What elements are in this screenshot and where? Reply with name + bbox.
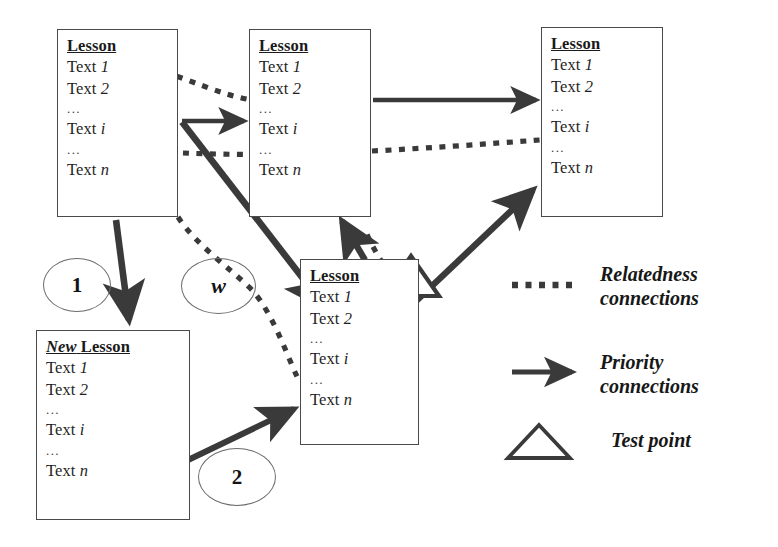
lesson-line-index: i [585, 117, 590, 136]
lesson-line-ellipsis-1: ... [259, 99, 370, 119]
lesson-line-index: 1 [101, 57, 109, 76]
lesson-line-ellipsis-1: ... [67, 99, 177, 119]
lesson-line-2: Text 2 [310, 308, 418, 329]
marker-ellipse-step-one[interactable]: 1 [43, 258, 111, 312]
lesson-line-index: n [101, 160, 109, 179]
lesson-line-n: Text n [310, 389, 418, 410]
lesson-line-index: n [344, 390, 352, 409]
legend-priority-line1: Priority [600, 350, 699, 374]
priority-edge-bm-to-tr [413, 190, 533, 304]
lesson-title-text: Lesson [259, 36, 308, 55]
legend-test-point-line1: Test point [611, 428, 691, 452]
lesson-line-1: Text 1 [551, 54, 662, 75]
legend-triangle-icon [508, 425, 570, 458]
lesson-line-index: 2 [80, 380, 88, 399]
lesson-line-index: 1 [344, 287, 352, 306]
new-lesson-title-prefix: New [46, 337, 77, 356]
diagram-canvas: Lesson Text 1 Text 2 ... Text i ... Text… [0, 0, 778, 547]
legend-test-point-label: Test point [611, 428, 691, 452]
lesson-title: Lesson [310, 265, 418, 286]
lesson-line-2: Text 2 [46, 379, 189, 400]
lesson-line-2: Text 2 [551, 76, 662, 97]
lesson-line-1: Text 1 [259, 56, 370, 77]
legend-relatedness-line1: Relatedness [600, 262, 699, 286]
legend-priority-label: Priority connections [600, 350, 699, 399]
lesson-box-bottom-middle[interactable]: Lesson Text 1 Text 2 ... Text i ... Text… [300, 259, 419, 445]
lesson-line-ellipsis-1: ... [46, 400, 189, 420]
lesson-box-top-left[interactable]: Lesson Text 1 Text 2 ... Text i ... Text… [57, 29, 178, 217]
lesson-line-ellipsis-1: ... [551, 97, 662, 117]
lesson-line-index: i [293, 119, 298, 138]
lesson-line-i: Text i [67, 118, 177, 139]
lesson-box-top-right[interactable]: Lesson Text 1 Text 2 ... Text i ... Text… [541, 27, 663, 217]
lesson-line-2: Text 2 [67, 78, 177, 99]
marker-ellipse-step-two[interactable]: 2 [198, 448, 276, 506]
lesson-line-ellipsis-1: ... [310, 329, 418, 349]
lesson-line-index: 2 [101, 79, 109, 98]
lesson-line-index: 2 [344, 309, 352, 328]
lesson-line-index: n [293, 160, 301, 179]
lesson-line-index: 2 [585, 77, 593, 96]
lesson-title-text: Lesson [551, 34, 600, 53]
marker-label-step-two: 2 [232, 465, 243, 490]
lesson-line-index: i [101, 119, 106, 138]
lesson-line-i: Text i [46, 419, 189, 440]
legend-relatedness-label: Relatedness connections [600, 262, 699, 311]
lesson-line-index: i [80, 420, 85, 439]
lesson-line-index: 1 [293, 57, 301, 76]
lesson-line-1: Text 1 [67, 56, 177, 77]
lesson-title: Lesson [551, 33, 662, 54]
priority-edge-bm-to-tm [342, 221, 365, 260]
lesson-line-ellipsis-2: ... [46, 441, 189, 461]
lesson-title-text: Lesson [67, 36, 116, 55]
legend-priority-line2: connections [600, 374, 699, 398]
lesson-line-ellipsis-2: ... [259, 140, 370, 160]
lesson-line-index: n [585, 158, 593, 177]
lesson-line-index: 2 [293, 79, 301, 98]
lesson-line-index: i [344, 349, 349, 368]
lesson-line-2: Text 2 [259, 78, 370, 99]
lesson-line-ellipsis-2: ... [67, 140, 177, 160]
marker-label-step-one: 1 [72, 273, 83, 298]
lesson-line-1: Text 1 [46, 357, 189, 378]
new-lesson-title-text: Lesson [81, 337, 130, 356]
new-lesson-title: New Lesson [46, 336, 189, 357]
lesson-line-n: Text n [259, 159, 370, 180]
lesson-line-index: 1 [585, 55, 593, 74]
lesson-line-n: Text n [46, 460, 189, 481]
marker-label-weight: w [211, 273, 226, 299]
lesson-title: Lesson [67, 35, 177, 56]
marker-ellipse-weight[interactable]: w [181, 258, 256, 314]
priority-edge-tl-to-new [116, 220, 129, 320]
lesson-line-n: Text n [551, 157, 662, 178]
lesson-box-top-middle[interactable]: Lesson Text 1 Text 2 ... Text i ... Text… [249, 29, 371, 217]
lesson-line-index: 1 [80, 358, 88, 377]
lesson-line-n: Text n [67, 159, 177, 180]
lesson-line-i: Text i [551, 116, 662, 137]
lesson-line-1: Text 1 [310, 286, 418, 307]
lesson-line-ellipsis-2: ... [310, 370, 418, 390]
lesson-line-i: Text i [310, 348, 418, 369]
lesson-line-ellipsis-2: ... [551, 138, 662, 158]
lesson-box-new-lesson[interactable]: New Lesson Text 1 Text 2 ... Text i ... … [36, 330, 190, 520]
lesson-line-index: n [80, 461, 88, 480]
legend-relatedness-line2: connections [600, 286, 699, 310]
lesson-line-i: Text i [259, 118, 370, 139]
lesson-title-text: Lesson [310, 266, 359, 285]
lesson-title: Lesson [259, 35, 370, 56]
